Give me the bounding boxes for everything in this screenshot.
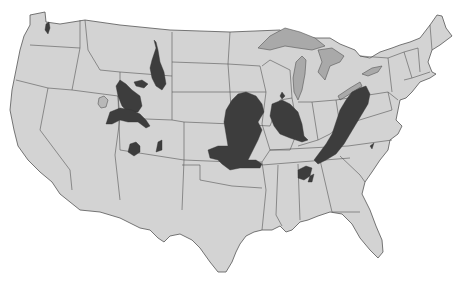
us-map — [0, 0, 453, 281]
us-map-svg — [0, 0, 453, 281]
